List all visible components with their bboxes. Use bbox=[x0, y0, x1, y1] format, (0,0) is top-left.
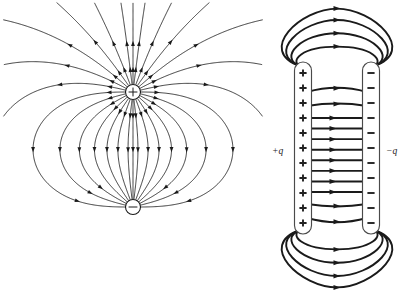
positive-charge bbox=[126, 85, 141, 100]
dipole-field-lines bbox=[3, 3, 262, 207]
electric-dipole-panel bbox=[3, 3, 262, 215]
negative-charge-label: −q bbox=[386, 146, 397, 156]
parallel-plate-capacitor-panel: +q −q bbox=[272, 6, 397, 290]
electric-field-diagram-svg: +q −q bbox=[0, 0, 412, 298]
positive-plate bbox=[295, 62, 312, 234]
figure-root: +q −q bbox=[0, 0, 412, 298]
negative-plate bbox=[363, 62, 380, 234]
capacitor-field-arrows bbox=[330, 6, 341, 290]
positive-charge-label: +q bbox=[272, 146, 283, 156]
negative-charge bbox=[126, 200, 141, 215]
